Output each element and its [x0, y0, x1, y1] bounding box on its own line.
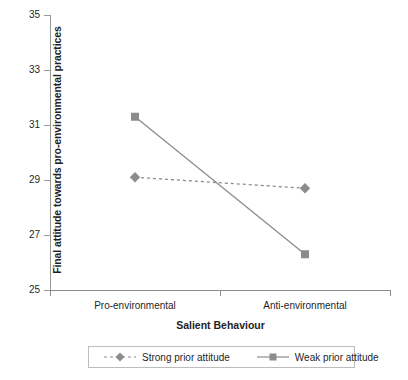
x-tick-mark-left	[50, 290, 51, 296]
strong-prior-attitude-marker-1	[300, 183, 310, 193]
series-weak-prior-attitude	[131, 113, 309, 259]
legend-label-strong-prior-attitude: Strong prior attitude	[142, 352, 230, 363]
x-tick-mark-middle	[220, 290, 221, 296]
x-tick-mark-right	[390, 290, 391, 296]
chart-legend: Strong prior attitude Weak prior attitud…	[88, 346, 355, 368]
y-tick-label-25: 25	[10, 285, 40, 295]
x-tick-label-pro-environmental: Pro-environmental	[60, 300, 210, 311]
x-axis-title: Salient Behaviour	[50, 319, 391, 331]
y-tick-label-31: 31	[10, 120, 40, 130]
legend-item-weak-prior-attitude: Weak prior attitude	[256, 347, 379, 367]
weak-prior-attitude-marker-0	[131, 113, 139, 121]
y-tick-label-33: 33	[10, 65, 40, 75]
y-axis-title: Final attitude towards pro-environmental…	[51, 5, 63, 295]
series-strong-prior-attitude	[130, 172, 310, 193]
y-tick-label-27: 27	[10, 230, 40, 240]
x-tick-label-anti-environmental: Anti-environmental	[230, 300, 380, 311]
legend-key-diamond-icon	[103, 350, 137, 364]
legend-item-strong-prior-attitude: Strong prior attitude	[103, 347, 230, 367]
strong-prior-attitude-marker-0	[130, 172, 140, 182]
y-axis-line	[50, 15, 51, 291]
y-tick-label-29: 29	[10, 175, 40, 185]
strong-prior-attitude-line	[135, 177, 305, 188]
weak-prior-attitude-line	[135, 117, 305, 255]
y-tick-label-35: 35	[10, 10, 40, 20]
legend-key-square-icon	[256, 350, 290, 364]
weak-prior-attitude-marker-1	[301, 250, 309, 258]
chart-figure: Final attitude towards pro-environmental…	[0, 0, 408, 380]
legend-label-weak-prior-attitude: Weak prior attitude	[295, 352, 379, 363]
